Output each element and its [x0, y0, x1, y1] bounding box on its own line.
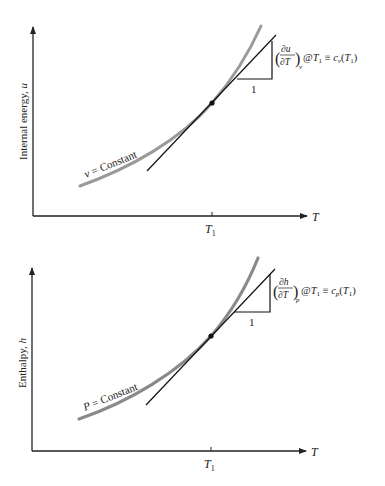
diagram-canvas: Internal energy, u T T1 v = Constant 1 (…	[0, 0, 385, 486]
x-axis-label: T	[311, 445, 319, 459]
enthalpy-plot: Enthalpy, h T T1 P = Constant 1 ( ∂h ∂T …	[16, 258, 356, 473]
tangent-point	[209, 100, 214, 105]
derivative-annotation: ( ∂h ∂T ) p @T1 ≡ cp(T1)	[273, 277, 356, 304]
t1-label: T1	[204, 457, 215, 473]
internal-energy-plot: Internal energy, u T T1 v = Constant 1 (…	[17, 26, 358, 238]
tangent-point	[208, 333, 213, 338]
svg-text:∂T: ∂T	[280, 57, 291, 67]
triangle-base-label: 1	[249, 316, 255, 328]
derivative-annotation: ( ∂u ∂T ) v @T1 ≡ cv(T1)	[275, 44, 358, 71]
svg-text:v: v	[299, 63, 303, 71]
svg-text:∂T: ∂T	[278, 290, 289, 300]
y-axis-label: Enthalpy, h	[16, 338, 28, 389]
y-axis-label: Internal energy, u	[17, 83, 29, 160]
svg-text:@T1 ≡ cv(T1): @T1 ≡ cv(T1)	[303, 52, 358, 65]
svg-text:p: p	[295, 296, 300, 304]
svg-text:@T1 ≡ cp(T1): @T1 ≡ cp(T1)	[301, 285, 356, 298]
x-axis-label: T	[312, 210, 320, 224]
t1-label: T1	[205, 222, 216, 238]
svg-text:∂u: ∂u	[281, 44, 291, 54]
triangle-base-label: 1	[251, 83, 257, 95]
svg-text:∂h: ∂h	[279, 277, 289, 287]
